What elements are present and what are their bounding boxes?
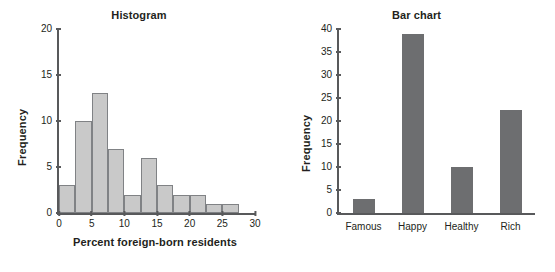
barchart-panel: Bar chart 0 5 10 15 20 <box>278 0 555 272</box>
barchart-x-category-rich: Rich <box>500 213 520 232</box>
tick-mark <box>336 212 341 214</box>
histogram-y-tick-20: 20 <box>41 24 59 34</box>
tick-mark <box>336 189 341 191</box>
histogram-bar <box>141 158 157 213</box>
histogram-x-tick-30: 30 <box>249 213 260 229</box>
tick-mark <box>336 74 341 76</box>
histogram-x-axis-label: Percent foreign-born residents <box>57 236 253 248</box>
tick-mark <box>336 28 341 30</box>
histogram-plot-area: 0 5 10 15 20 <box>57 29 255 215</box>
tick-mark <box>56 120 61 122</box>
histogram-x-tick-5: 5 <box>89 213 95 229</box>
barchart-x-category-famous: Famous <box>345 213 381 232</box>
barchart-y-tick-0: 0 <box>326 208 339 218</box>
barchart-bar-healthy <box>451 167 473 213</box>
barchart-y-axis-label: Frequency <box>300 115 312 172</box>
barchart-x-category-happy: Happy <box>398 213 427 232</box>
barchart-y-tick-20: 20 <box>321 116 339 126</box>
histogram-bar <box>173 195 189 213</box>
histogram-x-tick-0: 0 <box>56 213 62 229</box>
barchart-y-tick-25: 25 <box>321 93 339 103</box>
barchart-title: Bar chart <box>278 9 555 21</box>
figure-canvas: Histogram Frequency 0 5 10 15 20 <box>0 0 555 272</box>
barchart-x-category-healthy: Healthy <box>445 213 479 232</box>
histogram-x-tick-15: 15 <box>151 213 162 229</box>
histogram-panel: Histogram Frequency 0 5 10 15 20 <box>0 0 278 272</box>
tick-mark <box>56 28 61 30</box>
tick-mark <box>56 166 61 168</box>
histogram-x-tick-20: 20 <box>184 213 195 229</box>
histogram-bar <box>75 121 91 213</box>
histogram-y-tick-10: 10 <box>41 116 59 126</box>
tick-mark <box>336 166 341 168</box>
histogram-bar <box>190 195 206 213</box>
histogram-bar <box>157 185 173 213</box>
barchart-y-tick-5: 5 <box>326 185 339 195</box>
histogram-bar <box>124 195 140 213</box>
histogram-x-tick-25: 25 <box>217 213 228 229</box>
barchart-y-tick-40: 40 <box>321 24 339 34</box>
barchart-y-tick-30: 30 <box>321 70 339 80</box>
tick-mark <box>336 97 341 99</box>
barchart-y-tick-10: 10 <box>321 162 339 172</box>
barchart-y-tick-15: 15 <box>321 139 339 149</box>
barchart-bar-happy <box>402 34 424 213</box>
barchart-bar-rich <box>500 110 522 214</box>
histogram-bar <box>222 204 238 213</box>
histogram-title: Histogram <box>0 9 278 21</box>
histogram-y-axis-label: Frequency <box>16 109 28 166</box>
tick-mark <box>336 143 341 145</box>
histogram-y-tick-15: 15 <box>41 70 59 80</box>
barchart-bar-famous <box>353 199 375 213</box>
histogram-bar <box>92 93 108 213</box>
tick-mark <box>336 51 341 53</box>
histogram-y-tick-5: 5 <box>46 162 59 172</box>
histogram-bar <box>59 185 75 213</box>
tick-mark <box>56 74 61 76</box>
histogram-bar <box>108 149 124 213</box>
histogram-bar <box>206 204 222 213</box>
barchart-plot-area: 0 5 10 15 20 25 <box>337 29 535 215</box>
tick-mark <box>336 120 341 122</box>
histogram-x-tick-10: 10 <box>119 213 130 229</box>
barchart-y-tick-35: 35 <box>321 47 339 57</box>
